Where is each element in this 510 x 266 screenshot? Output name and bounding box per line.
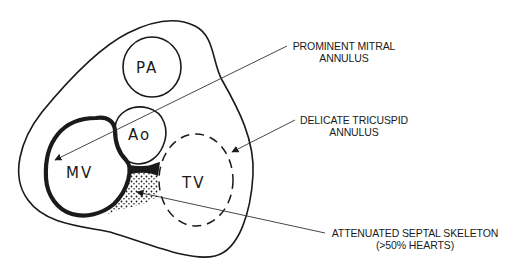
- label-line-1: ATTENUATED SEPTAL SKELETON: [328, 227, 502, 239]
- tv-label: TV: [181, 174, 205, 192]
- label-prominent-mitral-annulus: PROMINENT MITRAL ANNULUS: [290, 40, 398, 64]
- ao-label: Ao: [128, 126, 151, 144]
- label-line-2: (>50% HEARTS): [328, 239, 502, 251]
- mv-label: MV: [66, 164, 93, 182]
- label-line-1: DELICATE TRICUSPID: [298, 114, 410, 126]
- leader-line-septal: [137, 192, 325, 233]
- label-line-2: ANNULUS: [298, 126, 410, 138]
- label-line-2: ANNULUS: [290, 52, 398, 64]
- label-delicate-tricuspid-annulus: DELICATE TRICUSPID ANNULUS: [298, 114, 410, 138]
- label-line-1: PROMINENT MITRAL: [290, 40, 398, 52]
- label-attenuated-septal-skeleton: ATTENUATED SEPTAL SKELETON (>50% HEARTS): [328, 227, 502, 251]
- leader-line-mitral: [55, 46, 287, 160]
- leader-line-tricuspid: [232, 120, 295, 152]
- pa-label: PA: [136, 59, 158, 77]
